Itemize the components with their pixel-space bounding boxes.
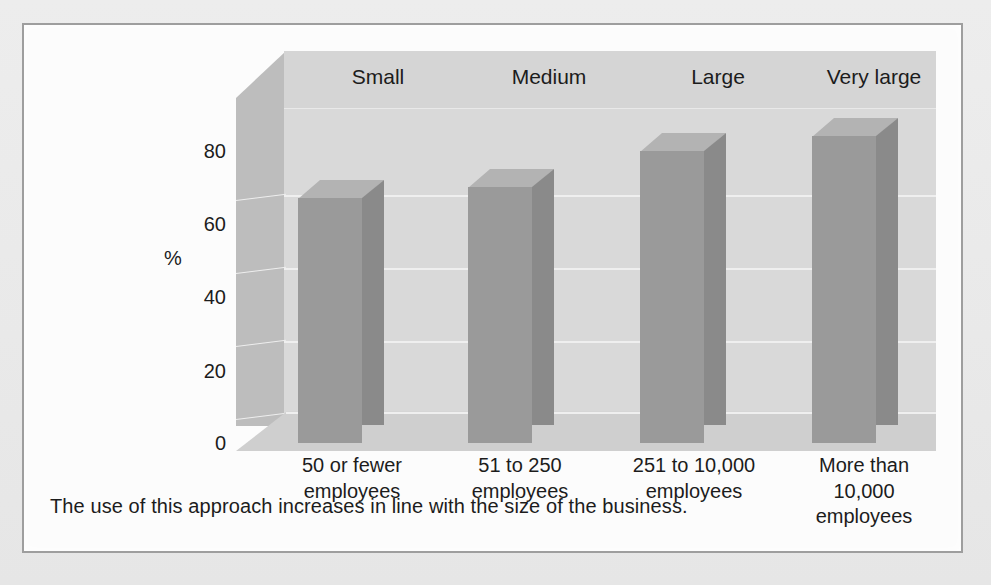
category-top-label-small: Small [298, 65, 458, 89]
bar-small-front-face [298, 198, 362, 443]
bar-medium-front-face [468, 187, 532, 443]
category-top-label-very-large: Very large [784, 65, 964, 89]
bar-very-large-side-face [876, 118, 898, 425]
caption-divider [24, 480, 965, 481]
x-label-large-line1: 251 to 10,000 [599, 453, 789, 479]
y-tick-60: 60 [174, 214, 226, 234]
y-tick-40: 40 [174, 287, 226, 307]
category-top-label-large: Large [638, 65, 798, 89]
x-label-small-line1: 50 or fewer [264, 453, 440, 479]
category-top-label-medium: Medium [464, 65, 634, 89]
y-tick-20: 20 [174, 361, 226, 381]
chart-panel: % 80 60 40 20 0 [22, 23, 963, 553]
y-axis: 80 60 40 20 0 [174, 25, 226, 465]
chart-caption: The use of this approach increases in li… [50, 495, 930, 518]
plot-area: % 80 60 40 20 0 [24, 25, 965, 465]
bar-small-side-face [362, 180, 384, 425]
chart-3d-body: Small Medium Large Very large [236, 51, 936, 451]
bar-medium[interactable] [468, 187, 532, 443]
y-tick-80: 80 [174, 141, 226, 161]
bar-small[interactable] [298, 198, 362, 443]
y-tick-0: 0 [174, 433, 226, 453]
bar-very-large-front-face [812, 136, 876, 443]
bar-large-side-face [704, 133, 726, 425]
chart-side-wall [236, 51, 286, 426]
bar-very-large[interactable] [812, 136, 876, 443]
x-label-very-large-line1: More than [776, 453, 952, 479]
bar-large-front-face [640, 151, 704, 443]
bar-large[interactable] [640, 151, 704, 443]
x-label-very-large: More than 10,000 employees [776, 453, 952, 530]
figure-root: % 80 60 40 20 0 [0, 0, 991, 585]
x-label-medium-line1: 51 to 250 [432, 453, 608, 479]
bar-medium-side-face [532, 169, 554, 425]
